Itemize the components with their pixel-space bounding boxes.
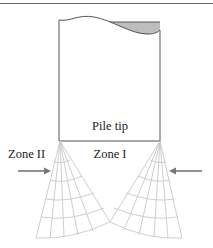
- right-arrow-icon: [169, 168, 202, 175]
- left-arrow-icon: [18, 168, 51, 175]
- zone-1-label: Zone I: [94, 147, 127, 161]
- pile-tip-label: Pile tip: [92, 119, 128, 133]
- pile-cut-shading: [110, 22, 160, 34]
- zone-2-label: Zone II: [8, 147, 45, 161]
- pile-diagram: Pile tip Zone II Zone I: [0, 0, 213, 248]
